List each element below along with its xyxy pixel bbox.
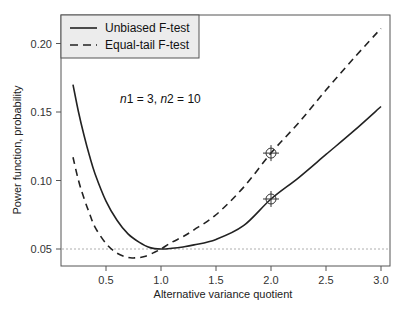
y-axis-title: Power function, probability [11,85,23,215]
x-tick-label: 2.5 [318,274,333,286]
x-tick-label: 2.0 [263,274,278,286]
x-tick-label: 0.5 [98,274,113,286]
y-tick-label: 0.15 [31,106,52,118]
y-tick-label: 0.05 [31,243,52,255]
x-tick-label: 3.0 [373,274,388,286]
marker-layer [263,145,279,207]
x-tick-label: 1.0 [153,274,168,286]
x-tick-label: 1.5 [208,274,223,286]
series-line-unbiased [73,85,381,249]
y-tick-label: 0.10 [31,175,52,187]
legend-label-unbiased: Unbiased F-test [105,21,190,35]
sample-size-annotation: n1 = 3, n2 = 10 [120,92,201,106]
y-axis: 0.050.100.150.20 [31,38,61,256]
series-layer [73,28,381,258]
legend-label-equal-tail: Equal-tail F-test [105,38,190,52]
x-axis-title: Alternative variance quotient [154,288,293,300]
y-tick-label: 0.20 [31,38,52,50]
legend: Unbiased F-test Equal-tail F-test [61,15,199,58]
x-axis: 0.51.01.52.02.53.0 [98,266,388,286]
power-function-chart: 0.51.01.52.02.53.0 0.050.100.150.20 Alte… [0,0,405,314]
